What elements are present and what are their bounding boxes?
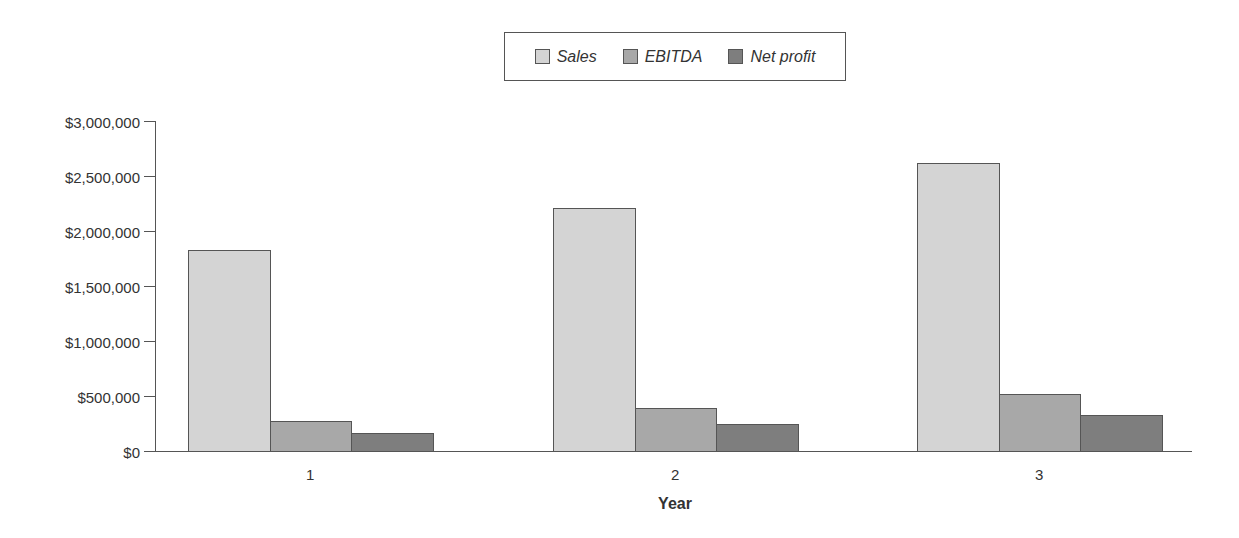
y-tick (144, 341, 155, 342)
x-tick-label: 3 (1035, 466, 1043, 483)
y-tick-label: $1,000,000 (65, 334, 140, 351)
bar-sales-year-3 (917, 163, 1000, 451)
y-tick-label: $2,000,000 (65, 224, 140, 241)
y-tick (144, 231, 155, 232)
bar-sales-year-1 (188, 250, 271, 451)
legend: Sales EBITDA Net profit (504, 32, 846, 81)
bar-net-profit-year-3 (1080, 415, 1163, 451)
bar-ebitda-year-1 (270, 421, 353, 451)
x-axis (144, 451, 1192, 452)
y-tick-label: $3,000,000 (65, 114, 140, 131)
y-tick (144, 451, 155, 452)
x-axis-title: Year (658, 495, 692, 513)
legend-label-sales: Sales (557, 48, 597, 66)
legend-item-sales: Sales (535, 48, 597, 66)
legend-label-net-profit: Net profit (750, 48, 815, 66)
bar-ebitda-year-3 (999, 394, 1082, 451)
y-tick-label: $2,500,000 (65, 169, 140, 186)
legend-label-ebitda: EBITDA (645, 48, 703, 66)
y-tick-label: $0 (123, 444, 140, 461)
y-tick (144, 286, 155, 287)
y-tick (144, 176, 155, 177)
bar-net-profit-year-1 (351, 433, 434, 451)
x-tick-label: 1 (306, 466, 314, 483)
legend-swatch-ebitda (623, 49, 638, 64)
bar-sales-year-2 (553, 208, 636, 451)
y-tick-label: $1,500,000 (65, 279, 140, 296)
legend-item-ebitda: EBITDA (623, 48, 703, 66)
legend-swatch-net-profit (728, 49, 743, 64)
bar-net-profit-year-2 (716, 424, 799, 452)
x-tick-label: 2 (671, 466, 679, 483)
bar-ebitda-year-2 (635, 408, 718, 451)
y-tick (144, 121, 155, 122)
y-axis (155, 121, 156, 452)
y-tick (144, 396, 155, 397)
y-tick-label: $500,000 (77, 389, 140, 406)
legend-item-net-profit: Net profit (728, 48, 815, 66)
legend-swatch-sales (535, 49, 550, 64)
